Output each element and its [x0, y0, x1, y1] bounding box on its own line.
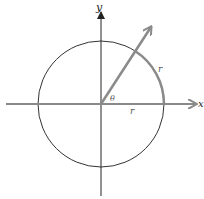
x-axis-label: x	[198, 98, 204, 109]
angle-label: θ	[110, 94, 115, 103]
angle-ray	[101, 27, 151, 104]
radius-label: r	[130, 106, 135, 116]
arc-highlight	[135, 51, 164, 104]
diagram-canvas: y x θ r r	[0, 0, 204, 199]
arc-length-label: r	[158, 64, 163, 74]
radian-diagram: y x θ r r	[0, 0, 204, 199]
y-axis-label: y	[95, 1, 103, 14]
